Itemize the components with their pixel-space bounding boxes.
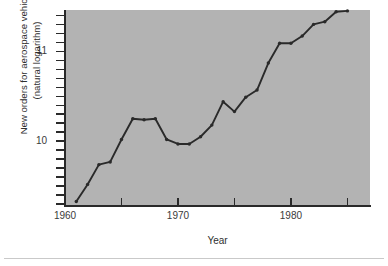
chart-title [65,0,370,3]
y-axis-title: New orders for aerospace vehicles (natur… [18,0,43,159]
page-bottom-rule [4,258,384,259]
y-tick-mark [56,140,65,142]
y-tick-mark [56,51,65,53]
y-tick-mark [56,122,65,124]
x-tick-label: 1970 [158,210,198,221]
plot-area-background [65,10,370,206]
x-tick-label: 1960 [45,210,85,221]
x-axis-title: Year [65,235,370,246]
x-tick-mark [234,198,236,207]
y-tick-mark [56,96,65,98]
y-tick-mark [56,185,65,187]
y-tick-mark [56,42,65,44]
x-tick-mark [121,198,123,207]
x-tick-mark [347,198,349,207]
y-tick-mark [56,113,65,115]
x-tick-mark [290,198,292,207]
y-tick-mark [56,15,65,17]
x-tick-mark [64,198,66,207]
y-tick-mark [56,69,65,71]
chart-figure: 1011 196019701980 New orders for aerospa… [0,0,388,266]
x-tick-mark [177,198,179,207]
y-tick-mark [56,60,65,62]
y-tick-mark [56,33,65,35]
y-tick-mark [56,87,65,89]
y-tick-mark [56,149,65,151]
y-tick-mark [56,194,65,196]
y-tick-mark [56,176,65,178]
y-tick-mark [56,131,65,133]
y-tick-mark [56,24,65,26]
x-tick-label: 1980 [271,210,311,221]
y-tick-mark [56,78,65,80]
y-tick-mark [56,158,65,160]
y-tick-mark [56,105,65,107]
y-tick-mark [56,167,65,169]
x-axis-line [64,205,371,207]
